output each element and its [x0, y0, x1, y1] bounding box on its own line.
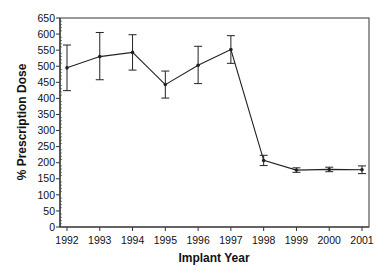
x-tick-label: 1997 [219, 234, 243, 246]
x-tick-label: 1998 [252, 234, 276, 246]
plot-border [60, 18, 369, 227]
y-axis-title: % Prescription Dose [15, 63, 29, 180]
y-tick-label: 450 [37, 76, 55, 88]
y-tick-label: 100 [37, 189, 55, 201]
data-point-marker [196, 63, 200, 67]
x-tick-label: 1995 [154, 234, 178, 246]
y-tick-label: 350 [37, 108, 55, 120]
x-tick-label: 1993 [88, 234, 112, 246]
y-tick-label: 650 [37, 12, 55, 24]
y-tick-label: 200 [37, 156, 55, 168]
x-tick-label: 1992 [55, 234, 79, 246]
data-point-marker [327, 168, 331, 172]
data-point-marker [360, 168, 364, 172]
data-point-marker [262, 159, 266, 163]
data-point-marker [295, 168, 299, 172]
plot-frame [60, 18, 369, 227]
x-tick-label: 1996 [186, 234, 210, 246]
data-series [63, 32, 366, 173]
x-axis: 1992199319941995199619971998199920002001 [55, 227, 374, 246]
data-point-marker [164, 83, 168, 87]
series-line [67, 50, 362, 171]
data-point-marker [131, 51, 135, 55]
x-axis-title: Implant Year [178, 251, 249, 265]
x-tick-label: 2000 [318, 234, 342, 246]
data-point-marker [98, 55, 102, 59]
y-axis: 050100150200250300350400450500550600650 [37, 12, 62, 233]
y-tick-label: 0 [49, 221, 55, 233]
y-tick-label: 150 [37, 172, 55, 184]
y-tick-label: 550 [37, 44, 55, 56]
y-tick-label: 50 [43, 205, 55, 217]
x-tick-label: 1999 [285, 234, 309, 246]
y-tick-label: 300 [37, 124, 55, 136]
x-tick-label: 1994 [121, 234, 145, 246]
y-tick-label: 400 [37, 92, 55, 104]
y-tick-label: 600 [37, 28, 55, 40]
data-point-marker [229, 48, 233, 52]
y-tick-label: 500 [37, 60, 55, 72]
data-point-marker [65, 66, 69, 70]
line-chart: 050100150200250300350400450500550600650 … [0, 0, 389, 278]
y-tick-label: 250 [37, 140, 55, 152]
x-tick-label: 2001 [350, 234, 374, 246]
